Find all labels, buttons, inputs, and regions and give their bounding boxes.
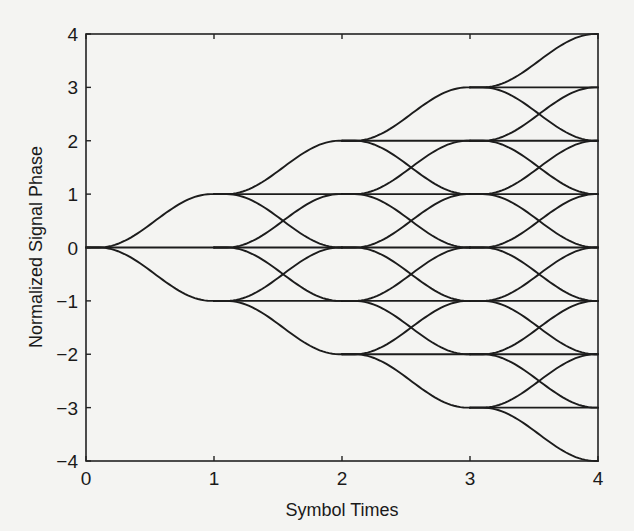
- trellis-branch: [214, 301, 342, 354]
- trellis-branch: [342, 141, 470, 194]
- trellis-branch: [470, 354, 598, 407]
- trellis-branch: [214, 248, 342, 301]
- y-tick-label: −2: [56, 344, 78, 365]
- x-axis-ticks: 01234: [81, 34, 604, 489]
- x-tick-label: 2: [337, 468, 348, 489]
- y-tick-label: 0: [67, 238, 78, 259]
- trellis-branch: [470, 34, 598, 87]
- y-axis-label: Normalized Signal Phase: [26, 146, 46, 348]
- trellis-branch: [342, 194, 470, 247]
- trellis-branch: [470, 301, 598, 354]
- y-tick-label: −4: [56, 451, 78, 472]
- trellis-branch: [86, 194, 214, 247]
- x-tick-label: 4: [593, 468, 604, 489]
- y-tick-label: −3: [56, 398, 78, 419]
- trellis-branch: [470, 194, 598, 247]
- trellis-branch: [342, 87, 470, 140]
- trellis-branch: [470, 141, 598, 194]
- trellis-branch: [342, 301, 470, 354]
- x-tick-label: 3: [465, 468, 476, 489]
- trellis-branch: [470, 87, 598, 140]
- y-tick-label: 2: [67, 131, 78, 152]
- trellis-branch: [214, 141, 342, 194]
- y-tick-label: 3: [67, 77, 78, 98]
- trellis-branch: [86, 248, 214, 301]
- trellis-branch: [470, 248, 598, 301]
- trellis-branch: [470, 408, 598, 461]
- trellis-branch: [470, 248, 598, 301]
- phase-trellis-chart: 01234 43210−1−2−3−4 Symbol Times Normali…: [0, 0, 634, 531]
- trellis-branch: [342, 194, 470, 247]
- trellis-branch: [470, 141, 598, 194]
- trellis-branch: [342, 248, 470, 301]
- y-tick-label: 1: [67, 184, 78, 205]
- trellis-paths: [86, 34, 598, 461]
- y-tick-label: −1: [56, 291, 78, 312]
- trellis-branch: [342, 248, 470, 301]
- x-axis-label: Symbol Times: [285, 500, 398, 520]
- trellis-branch: [470, 194, 598, 247]
- trellis-branch: [342, 141, 470, 194]
- trellis-branch: [470, 354, 598, 407]
- trellis-branch: [214, 194, 342, 247]
- trellis-branch: [214, 194, 342, 247]
- trellis-branch: [342, 354, 470, 407]
- trellis-branch: [470, 87, 598, 140]
- trellis-branch: [342, 301, 470, 354]
- y-tick-label: 4: [67, 24, 78, 45]
- trellis-branch: [214, 248, 342, 301]
- trellis-branch: [470, 301, 598, 354]
- x-tick-label: 1: [209, 468, 220, 489]
- x-tick-label: 0: [81, 468, 92, 489]
